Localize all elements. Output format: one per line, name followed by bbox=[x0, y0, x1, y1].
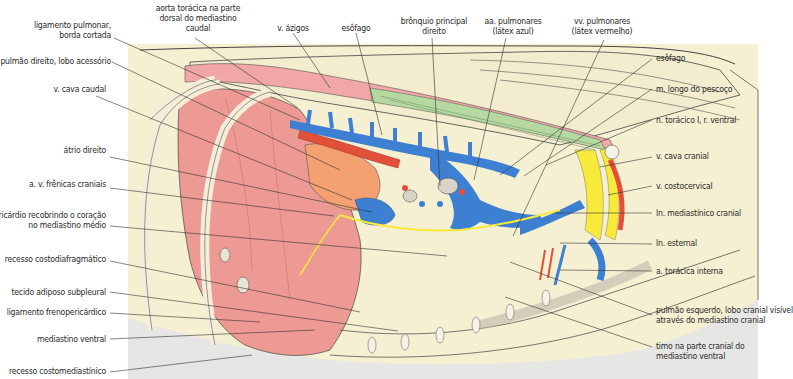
label-pulmao-esquerdo: pulmão esquerdo, lobo cranial visível at… bbox=[656, 305, 793, 325]
label-v-azigos: v. ázigos bbox=[268, 23, 318, 33]
label-aorta-toracica: aorta torácica na parte dorsal do medias… bbox=[143, 3, 253, 33]
label-ln-esternal: ln. esternal bbox=[656, 238, 697, 248]
label-recesso-costodiafragmatico: recesso costodiafragmático bbox=[5, 254, 106, 264]
label-v-cava-caudal: v. cava caudal bbox=[54, 84, 106, 94]
label-aa-pulmonares: aa. pulmonares (látex azul) bbox=[480, 16, 546, 36]
label-bronquio-principal-direito: brônquio principal direito bbox=[392, 16, 476, 36]
label-recesso-costomediastinico: recesso costomediastínico bbox=[9, 366, 106, 376]
label-esofago-top: esôfago bbox=[333, 23, 379, 33]
label-mediastino-ventral: mediastino ventral bbox=[37, 334, 106, 344]
label-timo: timo na parte cranial do mediastino vent… bbox=[656, 341, 744, 361]
label-esofago-right: esôfago bbox=[656, 53, 685, 63]
label-ln-mediastinico-cranial: ln. mediastínico cranial bbox=[656, 208, 741, 218]
label-ligamento-frenopericardico: ligamento frenopericárdico bbox=[7, 307, 106, 317]
label-v-costocervical: v. costocervical bbox=[656, 181, 712, 191]
label-pericardio: pericárdio recobrindo o coração no media… bbox=[0, 210, 106, 230]
label-atrio-direito: átrio direito bbox=[64, 145, 106, 155]
label-n-toracico: n. torácico I, r. ventral bbox=[656, 115, 736, 125]
label-a-toracica-interna: a. torácica interna bbox=[656, 266, 723, 276]
label-tecido-adiposo-subpleural: tecido adiposo subpleural bbox=[11, 287, 106, 297]
label-pulmao-direito-lobo-acessorio: pulmão direito, lobo acessório bbox=[0, 56, 111, 66]
label-m-longo-do-pescoco: m. longo do pescoço bbox=[656, 84, 732, 94]
label-vv-pulmonares: vv. pulmonares (látex vermelho) bbox=[564, 16, 640, 36]
label-ligamento-pulmonar: ligamento pulmonar, borda cortada bbox=[34, 20, 111, 40]
label-a-v-frenicas-craniais: a. v. frênicas craniais bbox=[29, 179, 106, 189]
label-v-cava-cranial: v. cava cranial bbox=[656, 151, 709, 161]
